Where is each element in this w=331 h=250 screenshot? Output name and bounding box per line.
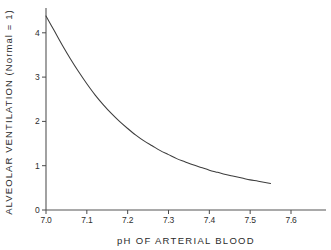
- ventilation-curve: [46, 16, 271, 183]
- y-axis-ticks: 01234: [35, 28, 46, 215]
- x-tick-label: 7.5: [245, 215, 257, 225]
- x-tick-label: 7.0: [40, 215, 52, 225]
- y-tick-label: 3: [35, 72, 40, 82]
- x-tick-label: 7.1: [81, 215, 93, 225]
- y-tick-label: 0: [35, 205, 40, 215]
- x-tick-label: 7.2: [122, 215, 134, 225]
- x-tick-label: 7.4: [204, 215, 216, 225]
- x-tick-label: 7.6: [285, 215, 297, 225]
- y-tick-label: 2: [35, 116, 40, 126]
- chart-figure: 01234 7.07.17.27.37.47.57.6 pH OF ARTERI…: [0, 0, 331, 250]
- x-axis-title: pH OF ARTERIAL BLOOD: [117, 235, 255, 246]
- x-axis-ticks: 7.07.17.27.37.47.57.6: [40, 210, 297, 225]
- alveolar-ventilation-ph-chart: 01234 7.07.17.27.37.47.57.6 pH OF ARTERI…: [0, 0, 331, 250]
- y-axis-title: ALVEOLAR VENTILATION (Normal = 1): [3, 9, 14, 215]
- y-tick-label: 1: [35, 161, 40, 171]
- y-tick-label: 4: [35, 28, 40, 38]
- x-tick-label: 7.3: [163, 215, 175, 225]
